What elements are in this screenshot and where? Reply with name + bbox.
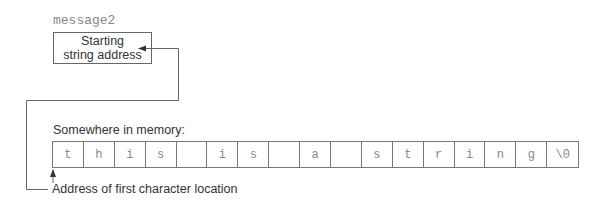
- memory-cell: [269, 142, 300, 167]
- memory-cell: i: [455, 142, 486, 167]
- first-char-address-label: Address of first character location: [52, 182, 238, 196]
- memory-cells-row: t h i s i s a s t r i n g \0: [52, 141, 579, 168]
- memory-label: Somewhere in memory:: [53, 123, 185, 137]
- memory-cell: s: [238, 142, 269, 167]
- memory-cell: [331, 142, 362, 167]
- memory-cell: s: [362, 142, 393, 167]
- memory-cell: r: [424, 142, 455, 167]
- memory-cell: i: [115, 142, 146, 167]
- variable-name-label: message2: [53, 13, 115, 28]
- memory-cell: [177, 142, 208, 167]
- memory-cell: a: [300, 142, 331, 167]
- memory-cell-null-terminator: \0: [547, 142, 578, 167]
- memory-cell: t: [393, 142, 424, 167]
- memory-cell: s: [146, 142, 177, 167]
- memory-cell: i: [207, 142, 238, 167]
- pointer-box-line2: string address: [63, 48, 142, 62]
- memory-cell: t: [53, 142, 84, 167]
- memory-cell: h: [84, 142, 115, 167]
- pointer-box-line1: Starting: [81, 34, 124, 48]
- memory-cell: g: [516, 142, 547, 167]
- memory-cell: n: [485, 142, 516, 167]
- pointer-box: Starting string address: [53, 32, 152, 64]
- pointer-connector: [27, 49, 179, 190]
